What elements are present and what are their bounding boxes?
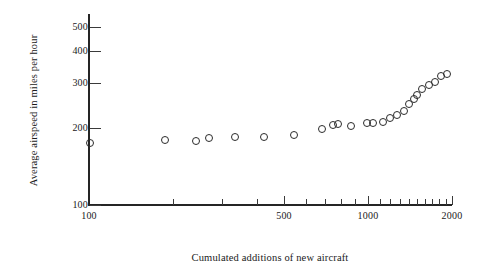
y-tick-label-300: 300 — [50, 78, 88, 88]
x-tick-1000 — [368, 196, 369, 205]
data-point — [347, 122, 355, 130]
y-tick-200 — [90, 128, 101, 129]
y-tick-label-text: 300 — [54, 78, 88, 88]
data-point — [86, 139, 94, 147]
data-point — [318, 125, 326, 133]
x-minor-tick-1300 — [400, 199, 401, 205]
data-point — [161, 136, 169, 144]
x-tick-label-500: 500 — [259, 210, 309, 221]
y-tick-label-500: 500 — [50, 22, 88, 32]
y-tick-label-200: 200 — [50, 123, 88, 133]
x-minor-tick-1800 — [439, 199, 440, 205]
y-axis-title: Average airspeed in miles per hour — [28, 16, 39, 206]
x-tick-2000 — [452, 196, 453, 205]
data-point — [231, 133, 239, 141]
data-point — [192, 137, 200, 145]
data-point — [369, 119, 377, 127]
y-tick-label-text: 500 — [54, 22, 88, 32]
x-minor-tick-200 — [173, 199, 174, 205]
x-minor-tick-300 — [222, 199, 223, 205]
x-minor-tick-600 — [306, 199, 307, 205]
data-point — [290, 131, 298, 139]
y-tick-label-text: 400 — [54, 46, 88, 56]
data-point — [334, 120, 342, 128]
data-point — [431, 78, 439, 86]
data-point — [260, 133, 268, 141]
y-tick-400 — [90, 51, 101, 52]
x-minor-tick-1200 — [390, 199, 391, 205]
x-minor-tick-400 — [257, 199, 258, 205]
x-tick-500 — [284, 196, 285, 205]
y-tick-label-text: 200 — [54, 123, 88, 133]
x-minor-tick-800 — [341, 199, 342, 205]
y-tick-300 — [90, 83, 101, 84]
x-axis-title: Cumulated additions of new aircraft — [88, 252, 452, 263]
data-point — [443, 70, 451, 78]
x-axis-line — [88, 204, 452, 206]
x-tick-label-2000: 2000 — [427, 210, 477, 221]
chart-container: 100200300400500 10050010002000 Average a… — [0, 0, 479, 277]
x-minor-tick-700 — [325, 199, 326, 205]
y-tick-label-100: 100 — [50, 200, 88, 210]
x-tick-label-1000: 1000 — [343, 210, 393, 221]
y-tick-500 — [90, 27, 101, 28]
x-minor-tick-900 — [355, 199, 356, 205]
data-point — [205, 134, 213, 142]
y-tick-100 — [90, 205, 101, 206]
x-minor-tick-1900 — [446, 199, 447, 205]
x-minor-tick-1600 — [425, 199, 426, 205]
y-tick-label-text: 100 — [54, 200, 88, 210]
data-point — [400, 107, 408, 115]
x-tick-label-100: 100 — [64, 210, 114, 221]
y-tick-label-400: 400 — [50, 46, 88, 56]
x-minor-tick-1400 — [409, 199, 410, 205]
x-minor-tick-1500 — [417, 199, 418, 205]
x-minor-tick-1100 — [380, 199, 381, 205]
x-minor-tick-1700 — [432, 199, 433, 205]
y-axis-line — [88, 14, 90, 206]
